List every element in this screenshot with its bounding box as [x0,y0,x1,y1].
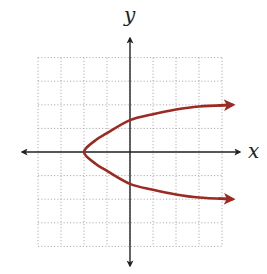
x-axis-label: x [248,139,259,163]
upper-arrow-icon [218,105,233,106]
parabola-graph: x y [0,0,267,274]
lower-arrow-icon [218,199,233,200]
y-axis-label: y [123,3,136,27]
